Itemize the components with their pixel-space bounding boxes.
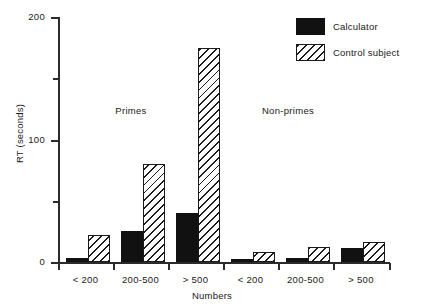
- bar-calculator-primes-lt200: [66, 258, 88, 262]
- bar-control-nonprimes-200-500: [308, 247, 330, 262]
- x-tick-5: [333, 263, 335, 270]
- bar-calculator-primes-200-500: [121, 231, 143, 262]
- bar-calculator-nonprimes-200-500: [286, 258, 308, 262]
- y-tick-50: [53, 201, 59, 203]
- y-tick-100: [51, 140, 59, 142]
- x-tick-label-nonprimes-lt200: < 200: [223, 274, 278, 285]
- bar-calculator-nonprimes-gt500: [341, 248, 363, 262]
- bar-calculator-primes-gt500: [176, 213, 198, 262]
- bar-control-primes-lt200: [88, 235, 110, 262]
- hatched-swatch-icon: [296, 44, 325, 61]
- y-tick-label-100: 100: [28, 134, 45, 145]
- legend-label-control-subject: Control subject: [333, 47, 399, 58]
- bar-control-nonprimes-gt500: [363, 242, 385, 262]
- y-tick-150: [53, 78, 59, 80]
- bar-control-primes-200-500: [143, 164, 165, 262]
- y-tick-label-0: 0: [39, 256, 45, 267]
- group-label-primes: Primes: [86, 105, 176, 116]
- x-axis-title: Numbers: [0, 290, 424, 301]
- x-tick-0: [58, 263, 60, 270]
- x-tick-2: [168, 263, 170, 270]
- x-tick-label-nonprimes-gt500: > 500: [333, 274, 389, 285]
- bar-control-primes-gt500: [198, 48, 220, 262]
- bar-control-nonprimes-lt200: [253, 252, 275, 262]
- x-tick-label-primes-gt500: > 500: [168, 274, 223, 285]
- x-tick-4: [278, 263, 280, 270]
- y-tick-label-200: 200: [28, 11, 45, 22]
- y-tick-200: [51, 17, 59, 19]
- legend: Calculator Control subject: [296, 16, 399, 68]
- x-tick-label-primes-lt200: < 200: [58, 274, 113, 285]
- group-label-non-primes: Non-primes: [238, 105, 338, 116]
- legend-item-calculator: Calculator: [296, 16, 399, 36]
- legend-label-calculator: Calculator: [333, 21, 378, 32]
- solid-black-swatch-icon: [296, 18, 325, 35]
- x-tick-1: [113, 263, 115, 270]
- bar-calculator-nonprimes-lt200: [231, 259, 253, 262]
- x-tick-6: [389, 263, 391, 270]
- legend-item-control-subject: Control subject: [296, 42, 399, 62]
- x-tick-label-primes-200-500: 200-500: [113, 274, 168, 285]
- y-axis-title: RT (seconds): [14, 89, 25, 179]
- x-tick-3: [223, 263, 225, 270]
- bar-chart: 200 100 0 RT (seconds) < 200 200-500 > 5…: [0, 0, 424, 307]
- x-tick-label-nonprimes-200-500: 200-500: [278, 274, 333, 285]
